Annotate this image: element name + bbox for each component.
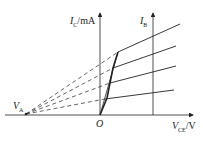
early-voltage-label: VA [13, 101, 23, 113]
output-curves [105, 24, 180, 99]
early-voltage-point [25, 113, 28, 116]
ib-axis-label: IB [140, 16, 147, 28]
y-axis-label: IC/mA [70, 16, 95, 28]
x-axis-label: VCE/V [172, 121, 196, 133]
origin-label: O [96, 119, 103, 129]
